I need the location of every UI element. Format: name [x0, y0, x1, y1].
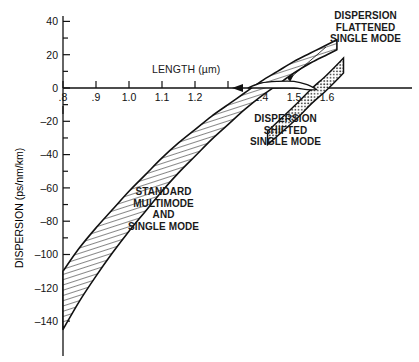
annotation-standard-line-2: MULTIMODE: [128, 198, 199, 210]
y-tick-label: –120: [35, 282, 59, 294]
annotation-standard-line-1: STANDARD: [128, 186, 199, 198]
plot-canvas: 40200–20–40–60–80–100–120–140 .8.91.01.1…: [0, 0, 419, 362]
y-tick-label: –80: [40, 215, 58, 227]
dispersion-chart: 40200–20–40–60–80–100–120–140 .8.91.01.1…: [0, 0, 419, 362]
y-tick-label: 40: [46, 15, 58, 27]
annotation-shifted-line-3: SINGLE MODE: [250, 136, 321, 148]
y-tick-label: –100: [35, 248, 59, 260]
y-axis-title: DISPERSION (ps/nm/km): [13, 148, 25, 268]
x-tick-label: 1.1: [155, 91, 170, 103]
y-tick-label: –20: [40, 115, 58, 127]
annotation-flattened-line-1: DISPERSION: [330, 10, 401, 22]
y-tick-label: –60: [40, 182, 58, 194]
x-tick-label: 1.2: [188, 91, 203, 103]
x-tick-label: 1.0: [122, 91, 137, 103]
annotation-dispersion-flattened: DISPERSION FLATTENED SINGLE MODE: [330, 10, 401, 45]
y-tick-label: –40: [40, 148, 58, 160]
y-tick-label: 0: [52, 82, 58, 94]
y-tick-label: 20: [46, 49, 58, 61]
annotation-flattened-line-3: SINGLE MODE: [330, 33, 401, 45]
annotation-standard-line-3: AND: [128, 209, 199, 221]
x-tick-labels: .8.91.01.11.21.41.51.6: [59, 91, 335, 103]
annotation-flattened-line-2: FLATTENED: [330, 22, 401, 34]
x-tick-label: .8: [59, 91, 68, 103]
annotation-shifted-line-2: SHIFTED: [250, 125, 321, 137]
convergence-arrow-icon: [232, 84, 243, 92]
y-tick-label: –140: [35, 315, 59, 327]
x-tick-label: .9: [92, 91, 101, 103]
annotation-standard-line-4: SINGLE MODE: [128, 221, 199, 233]
y-tick-labels: 40200–20–40–60–80–100–120–140: [35, 15, 59, 327]
annotation-shifted-line-1: DISPERSION: [250, 113, 321, 125]
annotation-dispersion-shifted: DISPERSION SHIFTED SINGLE MODE: [250, 113, 321, 148]
x-axis-title: LENGTH (µm): [152, 63, 220, 75]
annotation-standard-multimode: STANDARD MULTIMODE AND SINGLE MODE: [128, 186, 199, 232]
axes-group: [63, 16, 412, 356]
